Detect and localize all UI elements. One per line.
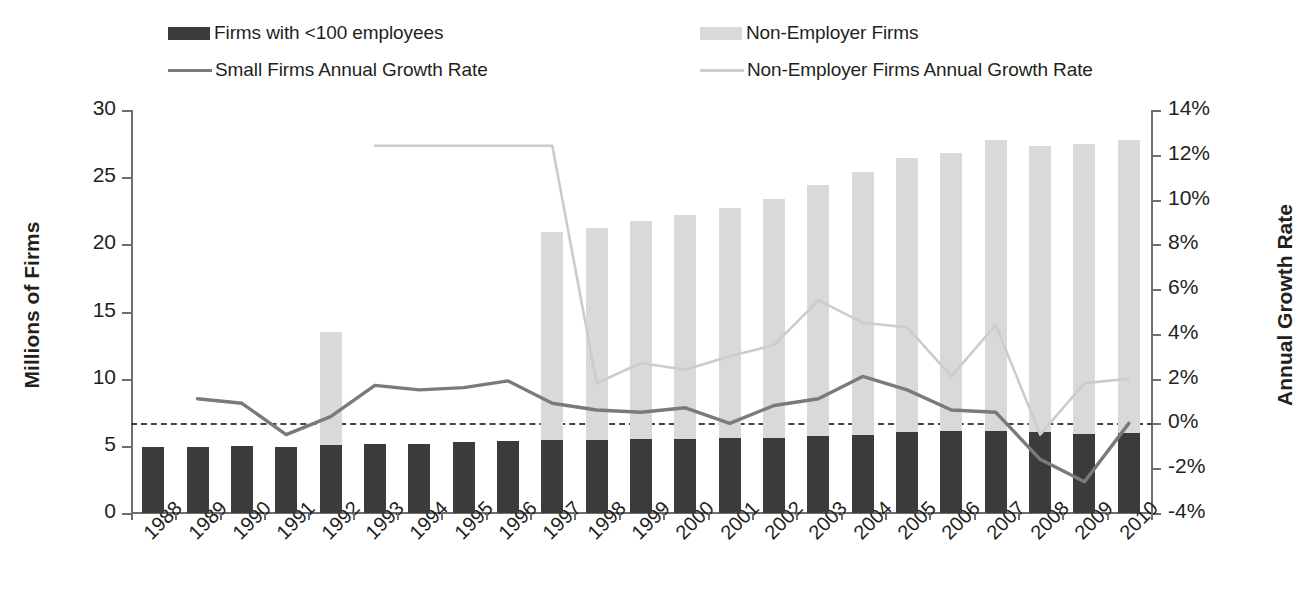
x-axis-tick-mark [1062,512,1064,520]
y-axis-right-tick-label: 10% [1168,186,1238,210]
y-axis-right-tick-mark [1152,289,1161,291]
y-axis-right-tick-label: 8% [1168,230,1238,254]
legend-swatch-box [700,27,742,40]
legend-swatch-box [168,27,210,40]
y-axis-right-tick-mark [1152,468,1161,470]
x-axis-tick-mark [1018,512,1020,520]
y-axis-left-title: Millions of Firms [20,180,44,430]
y-axis-left-tick-label: 20 [56,230,116,254]
legend-swatch-line [700,69,744,72]
x-axis-tick-mark [929,512,931,520]
legend-item-small-firms-bar[interactable]: Firms with <100 employees [168,22,443,44]
y-axis-left-tick-label: 30 [56,96,116,120]
y-axis-right-tick-mark [1152,200,1161,202]
y-axis-right-tick-label: -4% [1168,499,1238,523]
x-axis-tick-mark [175,512,177,520]
x-axis-tick-mark [619,512,621,520]
x-axis-tick-mark [1151,512,1153,520]
y-axis-right-title: Annual Growth Rate [1273,180,1297,430]
y-axis-right-tick-mark [1152,423,1161,425]
x-axis-tick-mark [264,512,266,520]
plot-area [131,110,1151,513]
y-axis-left-tick-label: 15 [56,298,116,322]
legend-item-nonemployer-bar[interactable]: Non-Employer Firms [700,22,918,44]
x-axis-tick-mark [1107,512,1109,520]
x-axis-tick-mark [308,512,310,520]
legend-label: Non-Employer Firms Annual Growth Rate [747,59,1093,81]
y-axis-right-tick-label: -2% [1168,454,1238,478]
y-axis-left-tick-mark [122,110,131,112]
x-axis-tick-mark [885,512,887,520]
y-axis-left-tick-mark [122,379,131,381]
x-axis-tick-mark [397,512,399,520]
y-axis-left-tick-mark [122,244,131,246]
y-axis-right-tick-mark [1152,379,1161,381]
legend-label: Firms with <100 employees [214,22,443,44]
chart-legend: Firms with <100 employees Non-Employer F… [0,22,1303,84]
x-axis-tick-mark [441,512,443,520]
y-axis-right-tick-label: 14% [1168,96,1238,120]
y-axis-left-tick-label: 5 [56,432,116,456]
lines-layer [131,110,1151,513]
x-axis-tick-mark [841,512,843,520]
y-axis-right-tick-label: 6% [1168,275,1238,299]
legend-item-small-firms-growth[interactable]: Small Firms Annual Growth Rate [168,59,488,81]
y-axis-left-tick-mark [122,446,131,448]
y-axis-left-tick-mark [122,177,131,179]
x-axis-tick-mark [974,512,976,520]
x-axis-tick-mark [796,512,798,520]
legend-item-nonemployer-growth[interactable]: Non-Employer Firms Annual Growth Rate [700,59,1093,81]
y-axis-right-tick-mark [1152,334,1161,336]
y-axis-right-tick-mark [1152,155,1161,157]
x-axis-tick-mark [220,512,222,520]
x-axis-tick-mark [131,512,133,520]
x-axis-tick-mark [353,512,355,520]
legend-label: Non-Employer Firms [746,22,918,44]
y-axis-left-tick-mark [122,513,131,515]
y-axis-right-tick-label: 2% [1168,365,1238,389]
y-axis-left-tick-label: 25 [56,163,116,187]
y-axis-left-tick-label: 10 [56,365,116,389]
x-axis-tick-mark [530,512,532,520]
y-axis-right-tick-mark [1152,110,1161,112]
y-axis-right-tick-mark [1152,244,1161,246]
y-axis-left-tick-mark [122,312,131,314]
y-axis-left-tick-label: 0 [56,499,116,523]
legend-swatch-line [168,69,212,72]
x-axis-tick-mark [486,512,488,520]
legend-label: Small Firms Annual Growth Rate [215,59,488,81]
chart-canvas: Firms with <100 employees Non-Employer F… [0,0,1303,616]
y-axis-right-tick-label: 12% [1168,141,1238,165]
growth-rate-line [198,376,1129,481]
x-axis-tick-mark [708,512,710,520]
x-axis-tick-mark [663,512,665,520]
y-axis-right-tick-label: 4% [1168,320,1238,344]
y-axis-right-tick-label: 0% [1168,409,1238,433]
y-axis-right-line [1151,110,1153,513]
x-axis-tick-mark [574,512,576,520]
x-axis-tick-mark [752,512,754,520]
growth-rate-line [375,146,1129,435]
